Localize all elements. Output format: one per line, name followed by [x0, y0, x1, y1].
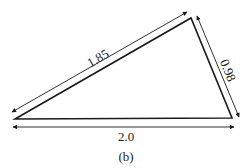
figure-caption: (b) — [118, 149, 133, 164]
triangle — [15, 18, 232, 119]
triangle-diagram: 1.85 0.98 2.0 (b) — [0, 0, 249, 168]
right-side-length-label: 0.98 — [217, 57, 240, 84]
bottom-side-length-label: 2.0 — [118, 129, 134, 144]
